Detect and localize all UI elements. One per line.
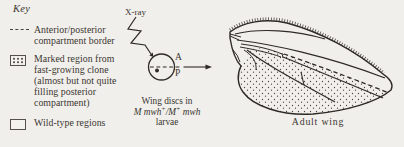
key-entry-wild-type: Wild-type regions	[10, 117, 128, 130]
key-entry-compartment-border: Anterior/posterior compartment border	[10, 24, 128, 46]
key-title: Key	[13, 3, 30, 14]
key-entry-marked-region: Marked region from fast-growing clone (a…	[10, 53, 128, 108]
xray-bolt-icon	[128, 17, 151, 54]
wing-disc-caption: Wing discs in M mwh+/M+ mwh larvae	[118, 96, 216, 128]
anterior-label: A	[175, 52, 182, 62]
adult-wing-label: Adult wing	[233, 116, 403, 127]
base-veins	[230, 34, 241, 40]
adult-wing-drawing	[225, 8, 404, 120]
key-label-compartment-border: Anterior/posterior compartment border	[34, 24, 128, 46]
wing-disc-diagram	[120, 0, 216, 96]
clone-dot	[155, 69, 159, 73]
open-box-icon	[10, 119, 26, 130]
stippled-box-icon	[10, 55, 26, 66]
key-label-marked-region: Marked region from fast-growing clone (a…	[34, 53, 128, 108]
wing-disc-caption-line3: larvae	[118, 117, 216, 128]
genotype-text: M mwh+/M+ mwh	[118, 107, 216, 118]
wing-disc-caption-line1: Wing discs in	[118, 96, 216, 107]
stippled-clone-region	[238, 48, 391, 114]
posterior-label: P	[175, 68, 180, 78]
key-label-wild-type: Wild-type regions	[34, 117, 128, 128]
arrowhead-icon	[206, 65, 213, 70]
dashed-line-icon	[10, 29, 29, 30]
